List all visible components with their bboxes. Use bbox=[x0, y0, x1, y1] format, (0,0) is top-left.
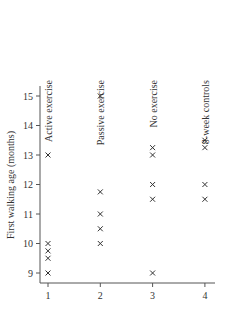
data-point bbox=[202, 145, 207, 150]
data-point bbox=[98, 212, 103, 217]
y-tick-label: 12 bbox=[23, 179, 33, 190]
x-tick-label: 1 bbox=[46, 290, 51, 301]
y-tick-label: 10 bbox=[23, 238, 33, 249]
x-tick-label: 2 bbox=[98, 290, 103, 301]
data-point bbox=[150, 153, 155, 158]
data-point bbox=[98, 241, 103, 246]
group-label: Passive exercise bbox=[95, 79, 106, 145]
axes bbox=[40, 86, 215, 283]
y-tick-label: 14 bbox=[23, 120, 33, 131]
data-point bbox=[46, 153, 51, 158]
data-point bbox=[202, 197, 207, 202]
data-point bbox=[98, 189, 103, 194]
y-tick-label: 15 bbox=[23, 91, 33, 102]
data-point bbox=[150, 145, 155, 150]
data-point bbox=[150, 182, 155, 187]
scatter-chart: 91011121314151234Active exercisePassive … bbox=[0, 0, 225, 312]
data-point bbox=[46, 271, 51, 276]
data-point bbox=[98, 226, 103, 231]
y-tick-label: 11 bbox=[23, 209, 33, 220]
data-point bbox=[46, 256, 51, 261]
marks bbox=[46, 94, 208, 276]
group-label: 8-week controls bbox=[200, 80, 211, 144]
data-point bbox=[202, 182, 207, 187]
y-tick-label: 9 bbox=[28, 268, 33, 279]
x-tick-label: 4 bbox=[202, 290, 207, 301]
data-point bbox=[150, 271, 155, 276]
data-point bbox=[46, 248, 51, 253]
data-point bbox=[150, 197, 155, 202]
data-point bbox=[46, 241, 51, 246]
y-tick-label: 13 bbox=[23, 150, 33, 161]
x-tick-label: 3 bbox=[150, 290, 155, 301]
labels: 91011121314151234Active exercisePassive … bbox=[23, 79, 211, 301]
y-axis-label: First walking age (months) bbox=[5, 131, 17, 239]
group-label: No exercise bbox=[148, 79, 159, 127]
group-label: Active exercise bbox=[43, 79, 54, 141]
ticks bbox=[36, 96, 205, 287]
